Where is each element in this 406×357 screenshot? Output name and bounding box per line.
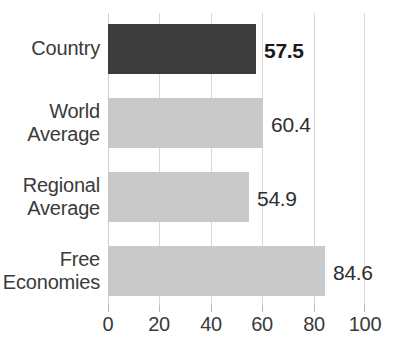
xtick-label-40: 40 bbox=[200, 313, 222, 335]
tick-80 bbox=[314, 305, 315, 312]
value-label-free-economies: 84.6 bbox=[333, 262, 373, 283]
category-label-line: Average bbox=[0, 123, 100, 146]
bar-chart: Country World Average Regional Average F… bbox=[0, 0, 406, 357]
value-label-world-average: 60.4 bbox=[271, 114, 311, 135]
category-label-line: Country bbox=[0, 37, 100, 60]
xtick-label-100: 100 bbox=[349, 313, 381, 335]
tick-100 bbox=[364, 305, 365, 312]
category-label-line: Regional bbox=[0, 174, 100, 197]
category-label-line: Average bbox=[0, 197, 100, 220]
bar-world-average[interactable] bbox=[108, 98, 263, 148]
value-label-regional-average: 54.9 bbox=[257, 188, 297, 209]
xtick-label-60: 60 bbox=[251, 313, 273, 335]
tick-0 bbox=[108, 305, 109, 312]
tick-20 bbox=[159, 305, 160, 312]
xtick-label-20: 20 bbox=[148, 313, 170, 335]
xtick-label-0: 0 bbox=[103, 313, 114, 335]
category-label-line: World bbox=[0, 100, 100, 123]
tick-40 bbox=[211, 305, 212, 312]
category-label-line: Free bbox=[0, 248, 100, 271]
bar-regional-average[interactable] bbox=[108, 172, 249, 222]
category-label-world-average: World Average bbox=[0, 100, 100, 146]
tick-60 bbox=[262, 305, 263, 312]
plot-area bbox=[108, 13, 365, 305]
category-label-free-economies: Free Economies bbox=[0, 248, 100, 294]
bar-free-economies[interactable] bbox=[108, 246, 325, 296]
category-label-line: Economies bbox=[0, 271, 100, 294]
bar-country[interactable] bbox=[108, 24, 256, 74]
xtick-label-80: 80 bbox=[303, 313, 325, 335]
value-label-country: 57.5 bbox=[264, 40, 304, 61]
category-label-country: Country bbox=[0, 37, 100, 60]
category-label-regional-average: Regional Average bbox=[0, 174, 100, 220]
